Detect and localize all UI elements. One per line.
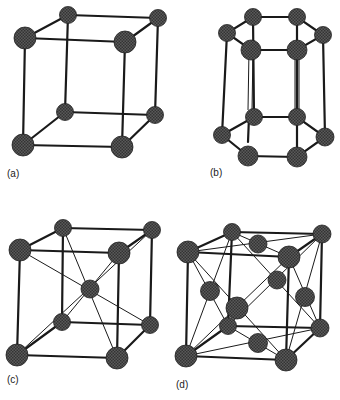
panel-d-fcc bbox=[175, 224, 331, 372]
panel-a-simple-cubic bbox=[12, 7, 167, 159]
bonds bbox=[23, 15, 158, 147]
panel-b-label: (b) bbox=[210, 167, 222, 178]
atoms bbox=[175, 224, 331, 372]
panel-b-hexagonal bbox=[214, 9, 335, 168]
panel-a-label: (a) bbox=[7, 168, 19, 179]
bonds bbox=[222, 17, 325, 157]
panel-d-label: (d) bbox=[176, 379, 188, 390]
crystal-lattice-figure bbox=[0, 0, 340, 400]
panel-c-label: (c) bbox=[7, 374, 19, 385]
panel-c-bcc bbox=[6, 220, 161, 370]
